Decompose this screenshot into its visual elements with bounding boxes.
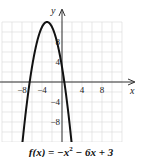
x-tick-label: 4 [80,85,85,95]
function-caption: f(x) = −x2 − 6x + 3 [0,142,142,157]
x-axis-label: x [129,85,135,96]
axes: x y [0,5,135,142]
x-tick-label: −8 [17,85,27,95]
x-tick-label: 8 [100,85,105,95]
y-tick-label: −4 [50,97,60,107]
y-tick-label: −8 [50,117,60,127]
x-tick-label: −4 [37,85,47,95]
caption-lhs: f(x) = −x [29,146,69,157]
y-axis-label: y [50,5,56,16]
caption-rhs: − 6x + 3 [73,146,113,157]
function-graph: x y −8−44884−4−8 [0,0,142,142]
